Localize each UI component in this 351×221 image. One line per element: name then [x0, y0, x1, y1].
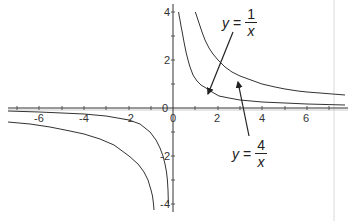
x-tick-label: 0 [170, 112, 176, 124]
x-tick-label: -2 [124, 112, 134, 124]
eq1-numerator: 1 [245, 7, 257, 23]
y-tick-label: 2 [164, 54, 170, 66]
eq2-equals: = [243, 146, 251, 162]
curve-4-over-x-negative [8, 122, 154, 210]
curve-1-over-x-negative [8, 111, 168, 204]
eq1-denominator: x [248, 23, 255, 38]
x-tick-label: 2 [214, 112, 220, 124]
y-tick-label: 4 [164, 198, 170, 210]
y-tick-label: 0 [162, 102, 168, 114]
arrow-to-1-over-x [208, 32, 233, 94]
eq1-equals: = [233, 15, 241, 31]
eq1-fraction: 1 x [245, 7, 257, 38]
curve-1-over-x-positive [179, 12, 345, 105]
eq2-numerator: 4 [255, 138, 267, 154]
eq2-lhs: y [232, 146, 239, 162]
eq2-fraction: 4 x [255, 138, 267, 169]
curve-4-over-x-positive [195, 12, 345, 95]
x-tick-label: -6 [34, 112, 44, 124]
chart-plot: -6 -4 -2 0 2 4 6 4 2 0 - 2 - 4 [0, 0, 351, 221]
label-y-equals-1-over-x: y = 1 x [222, 7, 257, 38]
y-tick-label: 4 [164, 6, 170, 18]
eq2-denominator: x [258, 154, 265, 169]
x-tick-label: 6 [303, 112, 309, 124]
y-tick-label: 2 [164, 150, 170, 162]
label-y-equals-4-over-x: y = 4 x [232, 138, 267, 169]
x-tick-label: 4 [259, 112, 265, 124]
eq1-lhs: y [222, 15, 229, 31]
